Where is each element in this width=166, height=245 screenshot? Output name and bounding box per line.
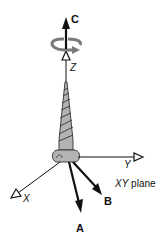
z-axis: Z	[62, 51, 77, 86]
vector-b-label: B	[104, 195, 112, 207]
x-axis-label: X	[22, 193, 30, 204]
y-axis-label: Y	[124, 159, 132, 170]
vector-c-arrowhead-icon	[62, 17, 70, 29]
x-axis-arrowhead-icon	[11, 189, 21, 198]
y-axis: Y	[78, 153, 143, 170]
screw-illustration	[52, 82, 79, 162]
vector-c-label: C	[71, 13, 79, 25]
xy-plane-axes: XY	[114, 178, 130, 189]
vector-c: C	[62, 13, 79, 49]
xy-plane-label: XY plane	[114, 178, 156, 189]
xy-plane-word: plane	[128, 178, 156, 189]
screw-vector-diagram: Z C Y	[0, 0, 166, 245]
vector-a-label: A	[76, 222, 84, 234]
x-axis: X	[11, 162, 60, 204]
y-axis-arrowhead-icon	[134, 153, 143, 161]
vector-a-arrowhead-icon	[75, 199, 83, 213]
z-axis-label: Z	[69, 62, 77, 73]
z-axis-arrowhead-icon	[62, 51, 70, 60]
